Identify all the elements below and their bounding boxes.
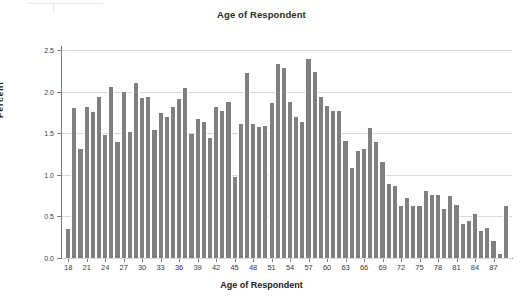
x-tick-label: 39 — [193, 263, 201, 272]
x-tick-mark — [87, 259, 88, 262]
y-tick-label: 1.0 — [44, 171, 54, 178]
x-tick-mark — [272, 259, 273, 262]
x-tick-mark — [457, 259, 458, 262]
x-tick-mark — [309, 259, 310, 262]
x-tick-mark — [383, 259, 384, 262]
x-tick-mark — [290, 259, 291, 262]
plot-area — [62, 50, 512, 258]
x-tick-label: 54 — [286, 263, 294, 272]
x-tick-mark — [216, 259, 217, 262]
x-tick-label: 63 — [341, 263, 349, 272]
x-tick-label: 66 — [360, 263, 368, 272]
x-tick-mark — [420, 259, 421, 262]
chart-title: Age of Respondent — [0, 9, 523, 20]
x-tick-mark — [198, 259, 199, 262]
x-tick-mark — [438, 259, 439, 262]
x-tick-mark — [327, 259, 328, 262]
x-tick-mark — [401, 259, 402, 262]
x-tick-label: 33 — [156, 263, 164, 272]
x-tick-label: 87 — [489, 263, 497, 272]
y-tick-label: 2.0 — [44, 88, 54, 95]
x-tick-mark — [475, 259, 476, 262]
y-tick-mark — [57, 175, 62, 176]
x-tick-mark — [142, 259, 143, 262]
x-tick-mark — [364, 259, 365, 262]
x-tick-mark — [68, 259, 69, 262]
x-tick-label: 78 — [434, 263, 442, 272]
x-tick-mark — [161, 259, 162, 262]
y-axis-label: Percent — [0, 81, 5, 118]
x-tick-mark — [494, 259, 495, 262]
y-tick-mark — [57, 50, 62, 51]
x-tick-label: 21 — [82, 263, 90, 272]
x-tick-mark — [179, 259, 180, 262]
x-tick-mark — [253, 259, 254, 262]
x-tick-label: 24 — [101, 263, 109, 272]
x-tick-label: 42 — [212, 263, 220, 272]
x-tick-label: 18 — [64, 263, 72, 272]
x-tick-label: 30 — [138, 263, 146, 272]
x-tick-label: 27 — [119, 263, 127, 272]
x-tick-mark — [124, 259, 125, 262]
x-tick-label: 69 — [378, 263, 386, 272]
x-axis-label: Age of Respondent — [0, 280, 523, 290]
x-tick-label: 48 — [249, 263, 257, 272]
bar — [503, 206, 509, 258]
x-tick-label: 57 — [304, 263, 312, 272]
x-tick-label: 51 — [267, 263, 275, 272]
y-tick-mark — [57, 216, 62, 217]
x-tick-label: 81 — [452, 263, 460, 272]
x-tick-label: 45 — [230, 263, 238, 272]
y-tick-label: 1.5 — [44, 130, 54, 137]
y-tick-mark — [57, 133, 62, 134]
x-tick-label: 75 — [415, 263, 423, 272]
y-tick-label: 0.5 — [44, 213, 54, 220]
x-tick-label: 84 — [471, 263, 479, 272]
chart-figure: Age of Respondent Percent 0.00.51.01.52.… — [0, 0, 523, 299]
y-tick-label: 2.5 — [44, 47, 54, 54]
bar-series — [62, 50, 512, 258]
y-tick-label: 0.0 — [44, 255, 54, 262]
x-tick-mark — [105, 259, 106, 262]
x-tick-label: 60 — [323, 263, 331, 272]
x-tick-mark — [346, 259, 347, 262]
top-edge-artifact-line — [28, 3, 103, 4]
x-tick-label: 36 — [175, 263, 183, 272]
x-tick-mark — [235, 259, 236, 262]
x-tick-label: 72 — [397, 263, 405, 272]
y-tick-mark — [57, 92, 62, 93]
